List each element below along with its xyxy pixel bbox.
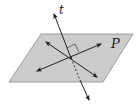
line-t-label: t — [59, 4, 64, 16]
perpendicular-line-plane-diagram: t P — [0, 0, 139, 108]
intersection-point — [70, 57, 72, 59]
plane-p-label: P — [111, 37, 120, 50]
line-t-lower — [80, 80, 89, 100]
diagram-canvas — [0, 0, 139, 108]
